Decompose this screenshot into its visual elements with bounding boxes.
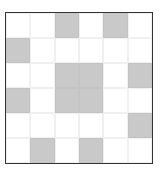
grid-cell-r3-c4[interactable] [103,88,127,113]
grid-cell-r2-c5[interactable] [128,63,152,88]
grid-cell-r2-c3[interactable] [79,63,103,88]
grid-cell-r2-c1[interactable] [30,63,54,88]
grid-cell-r0-c5[interactable] [128,13,152,38]
grid-cell-r1-c5[interactable] [128,38,152,63]
grid-cell-r3-c0[interactable] [6,88,30,113]
grid-cell-r5-c4[interactable] [103,138,127,163]
grid-cell-r0-c1[interactable] [30,13,54,38]
grid-cell-r0-c2[interactable] [55,13,79,38]
grid-cell-r4-c1[interactable] [30,113,54,138]
grid-cell-r0-c0[interactable] [6,13,30,38]
grid-cell-r5-c0[interactable] [6,138,30,163]
grid-cell-r5-c1[interactable] [30,138,54,163]
grid-cell-r3-c1[interactable] [30,88,54,113]
grid-cell-r2-c2[interactable] [55,63,79,88]
grid-cell-r1-c3[interactable] [79,38,103,63]
puzzle-grid [5,12,153,164]
grid-cell-r5-c2[interactable] [55,138,79,163]
grid-cell-r0-c3[interactable] [79,13,103,38]
grid-cell-r3-c5[interactable] [128,88,152,113]
grid-cell-r5-c5[interactable] [128,138,152,163]
grid-cell-r1-c1[interactable] [30,38,54,63]
grid-cell-r2-c4[interactable] [103,63,127,88]
grid-cell-r2-c0[interactable] [6,63,30,88]
grid-cell-r0-c4[interactable] [103,13,127,38]
grid-cell-r4-c4[interactable] [103,113,127,138]
grid-cell-r3-c3[interactable] [79,88,103,113]
grid-cell-r1-c0[interactable] [6,38,30,63]
grid-cell-r4-c5[interactable] [128,113,152,138]
grid-cell-r3-c2[interactable] [55,88,79,113]
grid-cell-r4-c3[interactable] [79,113,103,138]
grid-cell-r4-c2[interactable] [55,113,79,138]
grid-cell-r5-c3[interactable] [79,138,103,163]
grid-cell-r1-c4[interactable] [103,38,127,63]
grid-cell-r1-c2[interactable] [55,38,79,63]
grid-cell-r4-c0[interactable] [6,113,30,138]
